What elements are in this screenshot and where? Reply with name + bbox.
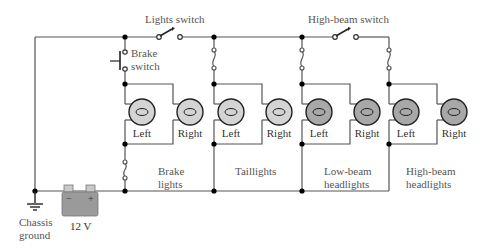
- battery-plus-label: +: [88, 192, 94, 205]
- fuse-taillights: [212, 48, 216, 70]
- group-label-brake-1: Brake: [158, 165, 184, 178]
- lamp-tail-left: [218, 99, 244, 125]
- lamp-brake-left: [129, 99, 155, 125]
- group-label-tail: Taillights: [235, 165, 276, 178]
- group-label-lowbeam-1: Low-beam: [324, 165, 372, 178]
- lamp-label-lowbeam-right: Right: [347, 127, 387, 139]
- circuit-diagram: [0, 0, 490, 251]
- lamp-highbeam-right: [441, 99, 467, 125]
- lights-switch[interactable]: [157, 27, 183, 39]
- group-label-highbeam-1: High-beam: [406, 165, 455, 178]
- lamp-label-lowbeam-left: Left: [299, 127, 339, 139]
- lights-switch-label: Lights switch: [145, 13, 205, 26]
- group-label-brake-2: lights: [158, 178, 182, 191]
- lamp-highbeam-left: [393, 99, 419, 125]
- fuse-brake: [123, 160, 127, 180]
- lamp-lowbeam-right: [354, 99, 380, 125]
- lamp-label-highbeam-left: Left: [386, 127, 426, 139]
- fuse-low-beam: [300, 48, 304, 70]
- chassis-ground-label-2: ground: [19, 229, 50, 242]
- lamp-label-tail-right: Right: [259, 127, 299, 139]
- lamp-tail-right: [266, 99, 292, 125]
- lamp-label-tail-left: Left: [211, 127, 251, 139]
- group-label-highbeam-2: headlights: [406, 178, 451, 191]
- group-label-lowbeam-2: headlights: [324, 178, 369, 191]
- battery-minus-label: −: [66, 192, 72, 205]
- fuses: [123, 48, 391, 180]
- chassis-ground-icon: [27, 191, 43, 210]
- lamps: [129, 99, 467, 125]
- brake-switch-label-1: Brake: [131, 47, 157, 60]
- lamp-label-brake-left: Left: [122, 127, 162, 139]
- battery-voltage-label: 12 V: [70, 220, 92, 233]
- lamp-label-highbeam-right: Right: [434, 127, 474, 139]
- brake-switch[interactable]: [110, 50, 127, 71]
- high-beam-switch-label: High-beam switch: [308, 13, 389, 26]
- high-beam-switch[interactable]: [333, 27, 359, 39]
- brake-switch-label-2: switch: [131, 60, 160, 73]
- lamp-lowbeam-left: [306, 99, 332, 125]
- chassis-ground-label-1: Chassis: [19, 216, 53, 229]
- fuse-high-beam: [387, 48, 391, 70]
- lamp-label-brake-right: Right: [170, 127, 210, 139]
- lamp-brake-right: [177, 99, 203, 125]
